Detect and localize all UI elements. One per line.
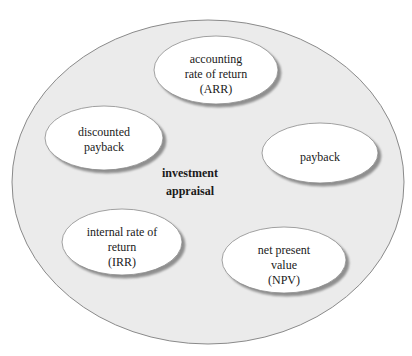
node-irr: internal rate of return (IRR) [62, 209, 182, 275]
node-arr-line-3: (ARR) [200, 82, 233, 96]
node-npv-line-1: net present [258, 243, 311, 257]
node-arr-line-2: rate of return [185, 67, 248, 81]
node-irr-line-2: return [108, 240, 137, 254]
center-line-2: appraisal [166, 184, 215, 198]
node-irr-line-1: internal rate of [87, 225, 158, 239]
investment-appraisal-diagram: investment appraisal accounting rate of … [0, 0, 412, 356]
node-discounted-payback-line-2: payback [84, 140, 124, 154]
node-npv-line-2: value [271, 258, 297, 272]
node-npv-line-3: (NPV) [268, 273, 300, 287]
node-discounted-payback-line-1: discounted [78, 125, 130, 139]
node-payback: payback [262, 123, 378, 183]
node-npv: net present value (NPV) [222, 227, 346, 293]
node-payback-line-1: payback [300, 150, 340, 164]
node-discounted-payback: discounted payback [45, 106, 163, 170]
node-irr-line-3: (IRR) [108, 255, 136, 269]
center-line-1: investment [162, 166, 218, 180]
node-arr-line-1: accounting [190, 52, 243, 66]
node-arr: accounting rate of return (ARR) [154, 36, 278, 104]
